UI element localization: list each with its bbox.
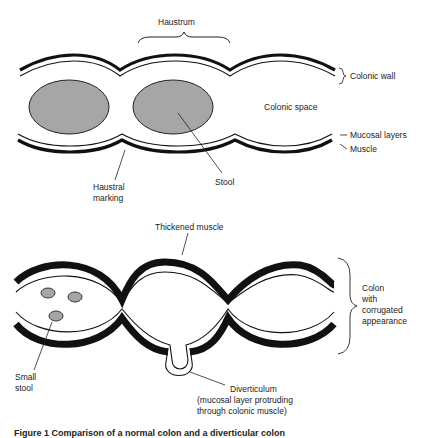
label-diverticulum: Diverticulum (mucosal layer protruding t… <box>197 384 293 417</box>
figure-caption: Figure 1 Comparison of a normal colon an… <box>14 428 285 438</box>
label-diverticulum-line1: Diverticulum <box>197 384 293 395</box>
bottom-mucosa <box>16 309 334 369</box>
label-diverticulum-line3: through colonic muscle) <box>197 406 293 417</box>
label-mucosal-layers: Mucosal layers <box>350 130 407 141</box>
label-colon-line1: Colon <box>362 283 407 294</box>
label-colon-corrugated: Colon with corrugated appearance <box>362 283 407 327</box>
label-haustral-marking-line1: Haustral <box>93 182 125 193</box>
label-small-stool-line1: Small <box>15 372 36 383</box>
label-stool: Stool <box>215 177 234 188</box>
label-colon-line3: corrugated <box>362 305 407 316</box>
label-haustral-marking: Haustral marking <box>93 182 125 204</box>
label-colon-line2: with <box>362 294 407 305</box>
haustral-marking-leader <box>115 150 125 180</box>
top-thickened-muscle <box>16 262 334 300</box>
label-colonic-space: Colonic space <box>264 102 317 113</box>
label-muscle: Muscle <box>350 144 377 155</box>
label-thickened-muscle: Thickened muscle <box>155 222 224 233</box>
colonic-wall-brace <box>339 68 346 84</box>
stool-right <box>133 80 213 134</box>
haustrum-brace <box>138 32 230 43</box>
bottom-wall-mucosa <box>18 134 332 146</box>
label-haustrum: Haustrum <box>158 17 195 28</box>
label-colon-line4: appearance <box>362 316 407 327</box>
colon-brace <box>338 258 357 354</box>
top-wall-mucosa <box>20 61 335 76</box>
top-wall-muscle <box>20 55 335 70</box>
label-small-stool: Small stool <box>15 372 36 394</box>
label-diverticulum-line2: (mucosal layer protruding <box>197 395 293 406</box>
small-stool-2 <box>68 292 82 302</box>
stool-left <box>29 80 109 134</box>
diverticular-colon-illustration <box>16 233 357 385</box>
muscle-leader <box>340 144 347 149</box>
thickened-muscle-leader <box>182 233 188 255</box>
label-haustral-marking-line2: marking <box>93 193 125 204</box>
top-mucosa <box>16 272 334 303</box>
small-stool-1 <box>41 288 55 298</box>
label-colonic-wall: Colonic wall <box>350 71 395 82</box>
bottom-thickened-muscle <box>16 318 334 352</box>
label-small-stool-line2: stool <box>15 383 36 394</box>
small-stool-3 <box>49 311 63 321</box>
